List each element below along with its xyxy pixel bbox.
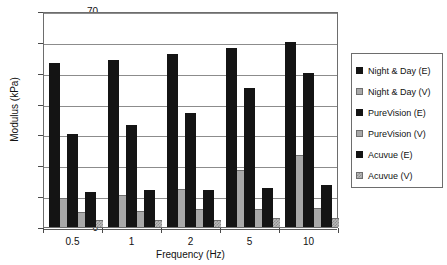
bar-night-and-day-e [226, 48, 237, 227]
bar-purevision-e [126, 125, 137, 227]
x-axis-title: Frequency (Hz) [43, 249, 338, 260]
bar-acuvue-e [262, 188, 273, 227]
legend-item-label: Acuvue (E) [368, 150, 413, 160]
bar-night-and-day-e [285, 42, 296, 227]
legend-swatch-icon [356, 172, 363, 179]
legend-item: Acuvue (E) [356, 144, 442, 165]
legend-item: Night & Day (V) [356, 81, 442, 102]
gridline [44, 229, 337, 230]
x-axis-tick-mark [161, 228, 162, 233]
legend-swatch-icon [356, 88, 363, 95]
bar-acuvue-e [321, 185, 332, 227]
bar-group-5 [221, 13, 280, 227]
bar-group-2 [162, 13, 221, 227]
legend-swatch-icon [356, 109, 363, 116]
legend-swatch-icon [356, 67, 363, 74]
x-axis-tick-label: 5 [230, 236, 270, 247]
bar-purevision-e [244, 88, 255, 227]
bar-acuvue-e [144, 190, 155, 227]
bar-purevision-e [185, 113, 196, 227]
legend-swatch-icon [356, 151, 363, 158]
bar-group-1 [103, 13, 162, 227]
x-axis-tick-label: 0.5 [53, 236, 93, 247]
legend-item-label: PureVision (V) [368, 129, 426, 139]
bar-chart-figure: Modulus (kPa) 010203040506070 0.512510 F… [0, 0, 447, 265]
bar-group-0-5 [44, 13, 103, 227]
bar-acuvue-e [85, 192, 96, 227]
legend: Night & Day (E)Night & Day (V)PureVision… [351, 53, 443, 188]
legend-item-label: PureVision (E) [368, 108, 426, 118]
bar-purevision-e [67, 134, 78, 227]
bar-purevision-e [303, 73, 314, 227]
legend-item-label: Night & Day (V) [368, 87, 431, 97]
bar-acuvue-e [203, 190, 214, 227]
legend-item-label: Acuvue (V) [368, 171, 413, 181]
x-axis-tick-mark [43, 228, 44, 233]
x-axis-tick-mark [279, 228, 280, 233]
bar-night-and-day-e [49, 63, 60, 227]
legend-item: PureVision (E) [356, 102, 442, 123]
legend-item-label: Night & Day (E) [368, 66, 431, 76]
bar-series-layer [44, 13, 337, 227]
x-axis-tick-label: 2 [171, 236, 211, 247]
x-axis-tick-label: 1 [112, 236, 152, 247]
plot-area [43, 12, 338, 228]
x-axis-tick-mark [102, 228, 103, 233]
x-axis-tick-mark [220, 228, 221, 233]
bar-group-10 [280, 13, 339, 227]
bar-night-and-day-e [108, 60, 119, 227]
legend-item: Acuvue (V) [356, 165, 442, 186]
x-axis-tick-mark [338, 228, 339, 233]
legend-item: Night & Day (E) [356, 60, 442, 81]
bar-night-and-day-e [167, 54, 178, 227]
legend-item: PureVision (V) [356, 123, 442, 144]
x-axis-tick-label: 10 [289, 236, 329, 247]
legend-swatch-icon [356, 130, 363, 137]
y-axis-title: Modulus (kPa) [9, 50, 20, 170]
